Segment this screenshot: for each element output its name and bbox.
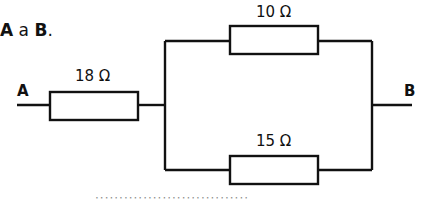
- node-b-label: B: [404, 82, 415, 100]
- circuit-diagram: [0, 0, 429, 200]
- resistor-r2: [230, 26, 318, 54]
- resistor-r2-label: 10 Ω: [256, 3, 291, 21]
- resistor-r3-label: 15 Ω: [256, 132, 291, 150]
- node-a-label: A: [17, 82, 29, 100]
- resistor-r1-label: 18 Ω: [75, 67, 110, 85]
- resistor-r1: [50, 92, 138, 120]
- resistor-r3: [230, 156, 318, 184]
